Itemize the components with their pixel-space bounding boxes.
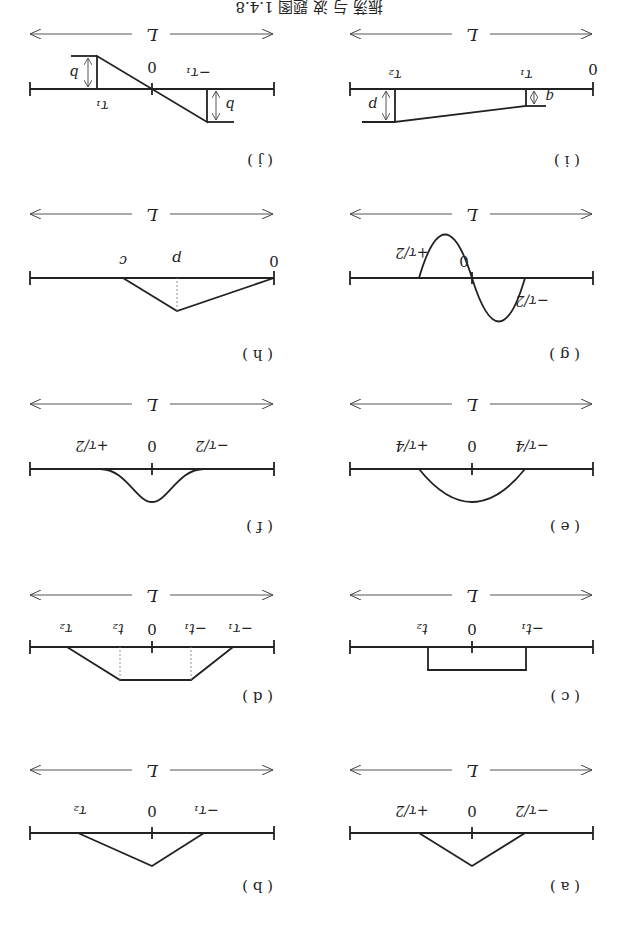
tick-label: 0 xyxy=(467,437,477,455)
tick-label: 0 xyxy=(147,58,157,76)
tick-label: 0 xyxy=(147,620,157,638)
panel-b: L −τ₁ 0 τ₂ ( b ) xyxy=(30,761,274,896)
tick-label: +τ/4 xyxy=(395,438,428,454)
tick-label: −τ/2 xyxy=(515,293,548,309)
tick-label: +τ/2 xyxy=(395,245,428,261)
panel-caption: ( h ) xyxy=(242,346,273,364)
span-label: L xyxy=(466,395,478,415)
figure-rotated: 振荡 与 波 题图 1.4.8 L −τ/2 0 +τ/2 ( a ) L −τ… xyxy=(0,0,618,946)
tick-label: −t₁ xyxy=(184,621,207,637)
tick-label: 0 xyxy=(459,252,469,270)
height-label: q xyxy=(545,89,554,105)
span-label: L xyxy=(146,586,158,606)
pulse-shape xyxy=(67,647,233,680)
panel-caption: ( d ) xyxy=(242,688,273,706)
page: 振荡 与 波 题图 1.4.8 L −τ/2 0 +τ/2 ( a ) L −τ… xyxy=(0,0,618,946)
panel-caption: ( b ) xyxy=(242,878,273,896)
span-label: L xyxy=(466,761,478,781)
height-label: b xyxy=(225,97,234,113)
tick-label: t₂ xyxy=(112,621,124,637)
span-label: L xyxy=(466,25,478,45)
panel-d: L −τ₁ −t₁ 0 t₂ τ₂ ( d ) xyxy=(30,586,274,706)
span-label: L xyxy=(466,586,478,606)
panel-caption: ( g ) xyxy=(549,346,580,364)
span-label: L xyxy=(146,761,158,781)
tick-label: −τ/2 xyxy=(195,438,228,454)
panel-caption: ( e ) xyxy=(550,518,580,536)
tick-label: 0 xyxy=(147,437,157,455)
height-label: p xyxy=(368,97,377,113)
panel-a: L −τ/2 0 +τ/2 ( a ) xyxy=(350,761,593,896)
tick-label: p xyxy=(172,250,182,268)
panel-caption: ( f ) xyxy=(246,518,273,536)
tick-label: +τ/2 xyxy=(75,438,108,454)
page-header: 振荡 与 波 题图 1.4.8 xyxy=(235,0,382,16)
pulse-shape xyxy=(78,833,204,866)
tick-label: −τ/4 xyxy=(515,438,548,454)
tick-label: t₂ xyxy=(416,621,428,637)
tick-label: 0 xyxy=(467,802,477,820)
panel-g: L −τ/2 0 +τ/2 ( g ) xyxy=(350,205,593,364)
pulse-shape xyxy=(395,89,526,122)
height-label: b xyxy=(69,65,78,81)
span-label: L xyxy=(146,395,158,415)
tick-label: τ₁ xyxy=(519,67,532,83)
tick-label: −τ/2 xyxy=(515,803,548,819)
pulse-shape xyxy=(123,278,274,311)
panel-caption: ( j ) xyxy=(247,152,273,170)
panel-i: L q p 0 τ₁ τ₂ ( i ) xyxy=(350,25,598,170)
tick-label: 0 xyxy=(269,252,279,270)
tick-label: −τ₁ xyxy=(193,803,218,819)
panel-j: L b b −τ₁ 0 τ₁ ( j ) xyxy=(30,25,274,170)
tick-label: τ₂ xyxy=(73,803,87,819)
tick-label: +τ/2 xyxy=(395,803,428,819)
span-label: L xyxy=(146,25,158,45)
tick-label: −t₁ xyxy=(521,621,544,637)
panel-f: L −τ/2 0 +τ/2 ( f ) xyxy=(30,395,274,536)
tick-label: 0 xyxy=(147,802,157,820)
tick-label: 0 xyxy=(467,620,477,638)
tick-label: −τ₁ xyxy=(227,621,252,637)
tick-label: τ₂ xyxy=(59,621,73,637)
tick-label: −τ₁ xyxy=(185,65,210,81)
span-label: L xyxy=(466,205,478,225)
panel-e: L −τ/4 0 +τ/4 ( e ) xyxy=(350,395,593,536)
span-label: L xyxy=(146,205,158,225)
panel-caption: ( a ) xyxy=(550,878,580,896)
tick-label: c xyxy=(119,253,127,269)
tick-label: τ₂ xyxy=(388,67,402,83)
panel-caption: ( i ) xyxy=(554,152,580,170)
panel-c: L −t₁ 0 t₂ ( c ) xyxy=(350,586,593,706)
panel-h: L 0 p c ( h ) xyxy=(30,205,279,364)
diagram-canvas: 振荡 与 波 题图 1.4.8 L −τ/2 0 +τ/2 ( a ) L −τ… xyxy=(0,0,618,946)
tick-label: 0 xyxy=(588,60,598,78)
tick-label: τ₁ xyxy=(95,98,108,114)
pulse-shape xyxy=(428,647,526,670)
panel-caption: ( c ) xyxy=(550,688,580,706)
